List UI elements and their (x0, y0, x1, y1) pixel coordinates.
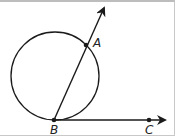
label-C: C (145, 123, 154, 137)
point-C (147, 118, 152, 123)
point-B (52, 118, 57, 123)
label-A: A (92, 36, 101, 50)
geometry-diagram: A B C (0, 0, 179, 138)
ray-BA (54, 8, 104, 120)
label-B: B (50, 123, 58, 137)
point-A (84, 43, 89, 48)
